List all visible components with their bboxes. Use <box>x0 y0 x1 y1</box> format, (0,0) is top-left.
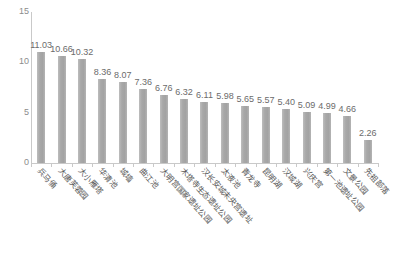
bar-group: 5.09 <box>296 12 316 163</box>
x-tick-mark <box>31 163 32 167</box>
x-tick-mark <box>72 163 73 167</box>
x-tick-mark <box>378 163 379 167</box>
bar[interactable] <box>139 89 147 163</box>
x-category-label: 城墙 <box>117 166 134 184</box>
x-tick-mark <box>337 163 338 167</box>
bar-group: 4.99 <box>317 12 337 163</box>
plot-area: 11.0310.6610.328.368.077.366.766.326.115… <box>31 12 378 163</box>
x-tick-mark <box>153 163 154 167</box>
x-tick-mark <box>51 163 52 167</box>
bar-group: 8.36 <box>92 12 112 163</box>
bar-group: 5.98 <box>215 12 235 163</box>
bar-value-label: 7.36 <box>134 78 152 87</box>
x-tick-mark <box>296 163 297 167</box>
bar-value-label: 6.76 <box>155 84 173 93</box>
x-category-label: 兴庆宫 <box>301 166 324 190</box>
bar-value-label: 8.36 <box>94 68 112 77</box>
y-tick-label: 15 <box>5 7 29 16</box>
x-tick-mark <box>235 163 236 167</box>
x-category-label: 青龙寺 <box>240 166 263 190</box>
bar-value-label: 10.32 <box>71 48 94 57</box>
x-category-label: 曲江池 <box>138 166 161 190</box>
x-tick-mark <box>276 163 277 167</box>
bar-group: 6.76 <box>153 12 173 163</box>
x-tick-mark <box>256 163 257 167</box>
bar[interactable] <box>323 113 331 163</box>
bar-value-label: 11.03 <box>30 41 52 50</box>
bar-group: 6.11 <box>194 12 214 163</box>
bar-value-label: 10.66 <box>50 45 73 54</box>
x-axis-line <box>31 163 378 164</box>
bar[interactable] <box>98 79 106 163</box>
bar-value-label: 5.65 <box>237 95 255 104</box>
y-tick-label: 0 <box>5 158 29 167</box>
x-tick-mark <box>358 163 359 167</box>
bar-group: 5.40 <box>276 12 296 163</box>
bar[interactable] <box>282 109 290 163</box>
bar-group: 5.57 <box>256 12 276 163</box>
bar-value-label: 5.98 <box>216 92 234 101</box>
bar-value-label: 6.32 <box>175 88 193 97</box>
bar[interactable] <box>303 112 311 163</box>
bar-group: 11.03 <box>31 12 51 163</box>
bar[interactable] <box>343 116 351 163</box>
x-tick-mark <box>92 163 93 167</box>
x-tick-mark <box>174 163 175 167</box>
bar-value-label: 5.57 <box>257 96 275 105</box>
bar-value-label: 4.99 <box>318 102 336 111</box>
bar-value-label: 4.66 <box>339 105 357 114</box>
bar[interactable] <box>119 82 127 163</box>
bar-value-label: 5.09 <box>298 101 316 110</box>
bar-group: 10.32 <box>72 12 92 163</box>
bar[interactable] <box>241 106 249 163</box>
bar-value-label: 2.26 <box>359 129 377 138</box>
x-axis-category-labels: 兵马俑大唐芙蓉园大小雁塔华清池城墙曲江池大明宫国家遗址公园木塔寺生态遗址公园汉长… <box>31 166 378 262</box>
y-tick-label: 10 <box>5 57 29 66</box>
bar[interactable] <box>180 99 188 163</box>
bar[interactable] <box>262 107 270 163</box>
bar[interactable] <box>78 59 86 163</box>
bar[interactable] <box>364 140 372 163</box>
bar-group: 7.36 <box>133 12 153 163</box>
bar[interactable] <box>200 102 208 164</box>
bar-value-label: 5.40 <box>277 98 295 107</box>
x-category-label: 昆明湖 <box>260 166 283 190</box>
y-axis-ticks: 051015 <box>0 0 29 180</box>
x-category-label: 汉城湖 <box>280 166 303 190</box>
bar-value-label: 6.11 <box>196 91 213 100</box>
bar[interactable] <box>160 95 168 163</box>
bar-group: 6.32 <box>174 12 194 163</box>
x-tick-mark <box>215 163 216 167</box>
x-tick-mark <box>113 163 114 167</box>
bar[interactable] <box>221 103 229 163</box>
bar-group: 5.65 <box>235 12 255 163</box>
bar-group: 10.66 <box>51 12 71 163</box>
bar-chart: 051015 11.0310.6610.328.368.077.366.766.… <box>0 0 400 264</box>
bar[interactable] <box>37 52 45 163</box>
bar-value-label: 8.07 <box>114 71 132 80</box>
y-tick-label: 5 <box>5 108 29 117</box>
bar-group: 2.26 <box>358 12 378 163</box>
bar[interactable] <box>58 56 66 163</box>
x-tick-mark <box>133 163 134 167</box>
x-tick-mark <box>194 163 195 167</box>
x-category-label: 兵马俑 <box>36 166 59 190</box>
bar-group: 4.66 <box>337 12 357 163</box>
bar-group: 8.07 <box>113 12 133 163</box>
x-tick-mark <box>317 163 318 167</box>
